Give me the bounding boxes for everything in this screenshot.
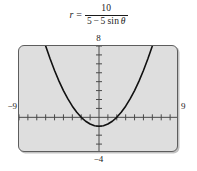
denominator-sine-function: sin — [105, 16, 119, 26]
x-axis-min-label: −9 — [1, 102, 17, 111]
equation-denominator: 5−5sinθ — [85, 16, 128, 27]
denominator-operator: − — [92, 16, 101, 26]
x-axis-max-label: 9 — [181, 102, 196, 111]
equation-fraction: 10 5−5sinθ — [85, 4, 128, 26]
y-axis-min-label: −4 — [0, 155, 197, 164]
polar-equation: r = 10 5−5sinθ — [0, 4, 197, 26]
denominator-theta-symbol: θ — [119, 16, 125, 26]
y-axis-max-label: 8 — [0, 34, 197, 43]
calculator-screen-frame — [18, 45, 178, 152]
graph-area — [18, 45, 178, 152]
parabola-plot-svg — [19, 46, 178, 152]
equation-equals-sign: = — [75, 10, 85, 20]
equation-numerator: 10 — [97, 4, 115, 15]
equation-expression: r = 10 5−5sinθ — [69, 4, 127, 26]
